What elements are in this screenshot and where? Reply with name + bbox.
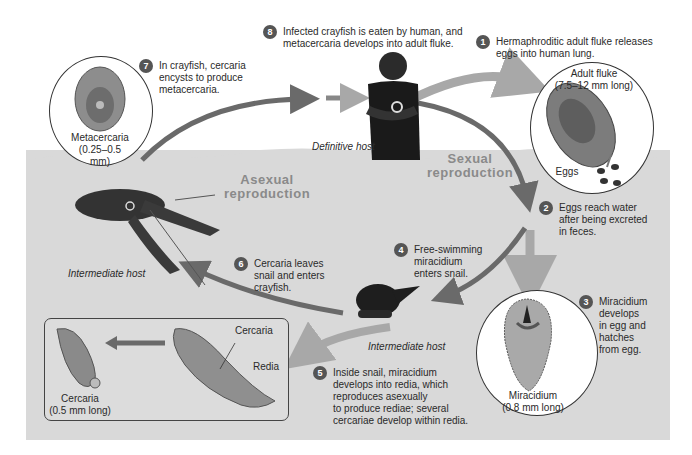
step-8-text: Infected crayfish is eaten by human, and… xyxy=(283,26,463,50)
step-7-badge: 7 xyxy=(139,59,153,73)
step-3-badge: 3 xyxy=(579,295,593,309)
definitive-host-label: Definitive host xyxy=(312,141,375,152)
step-5-text: Inside snail, miracidium develops into r… xyxy=(333,367,468,427)
redia-label: Redia xyxy=(253,361,283,373)
redia-cercaria-label: Cercaria xyxy=(235,325,275,337)
step-1-badge: 1 xyxy=(476,35,490,49)
step-7-text: In crayfish, cercaria encysts to produce… xyxy=(159,60,246,96)
step-1-text: Hermaphroditic adult fluke releases eggs… xyxy=(496,36,653,60)
step-3-text: Miracidium develops in egg and hatches f… xyxy=(599,296,647,356)
step-6-text: Cercaria leaves snail and enters crayfis… xyxy=(254,258,325,294)
step-2-badge: 2 xyxy=(539,201,553,215)
step-4-text: Free-swimming miracidium enters snail. xyxy=(414,244,482,280)
step-4-badge: 4 xyxy=(394,243,408,257)
step-2-text: Eggs reach water after being excreted in… xyxy=(559,202,647,238)
step-5-badge: 5 xyxy=(313,366,327,380)
cercaria-label: Cercaria (0.5 mm long) xyxy=(47,393,113,417)
step-8-badge: 8 xyxy=(263,25,277,39)
sexual-reproduction-label: Sexual reproduction xyxy=(425,152,515,180)
asexual-reproduction-label: Asexual reproduction xyxy=(222,173,312,201)
redia-cercaria-inset: Cercaria Redia Cercaria (0.5 mm long) xyxy=(44,318,289,421)
snail-host-label: Intermediate host xyxy=(368,341,445,352)
crayfish-host-label: Intermediate host xyxy=(68,268,145,279)
step-6-badge: 6 xyxy=(234,257,248,271)
